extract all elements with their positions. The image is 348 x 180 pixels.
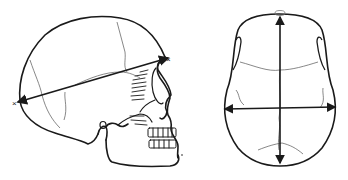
right-zygomatic-arch: [317, 37, 325, 70]
superior-measurements: [225, 17, 335, 163]
lateral-sutures: [30, 22, 140, 128]
endpoint-marker-posterior: ×: [12, 99, 17, 108]
teeth: [148, 128, 176, 148]
endpoint-marker-anterior: ×: [166, 55, 171, 64]
external-auditory-meatus: [100, 122, 106, 129]
facial-profile: [157, 57, 178, 158]
max-breadth-line: [225, 107, 335, 109]
skull-measurement-figure: × ×: [0, 0, 348, 180]
lateral-skull: [20, 17, 183, 167]
figure-canvas: × ×: [0, 0, 348, 180]
occipital-outline: [20, 101, 98, 144]
lateral-length-measurement: × ×: [12, 55, 171, 108]
